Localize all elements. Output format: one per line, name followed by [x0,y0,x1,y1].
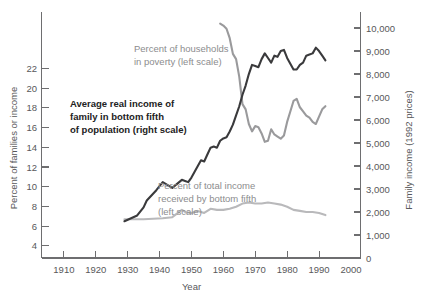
axis-bottom-tick-label: 1990 [309,264,330,275]
series-line-income-share [124,203,325,220]
axis-bottom-ticks [64,251,319,258]
annotation-share-line-3: (left scale) [158,206,202,217]
series-line-poverty-rate [220,24,325,142]
axis-bottom-tick-label: 1980 [277,264,298,275]
axis-right-tick-label: 9,000 [366,46,390,57]
axis-right-tick-label: 6,000 [366,115,390,126]
axis-right-ticks [354,28,361,258]
axis-right-tick-label: 5,000 [366,138,390,149]
axis-left-tick-label: 6 [32,221,37,232]
axis-bottom-title: Year [182,281,201,292]
annotation-income-line-1: Average real income of [70,98,175,109]
axis-bottom: 1910 1920 1930 1940 1950 1960 1970 1980 … [42,251,362,292]
axis-right-tick-label: 4,000 [366,161,390,172]
axis-left-tick-label: 10 [26,181,37,192]
chart-container: 22 20 18 16 14 12 10 8 6 4 Percent of fa… [0,0,422,295]
axis-right-tick-label: 7,000 [366,92,390,103]
axis-right-tick-labels: 0 1,000 2,000 3,000 4,000 5,000 6,000 7,… [366,23,395,264]
annotation-poverty: Percent of households in poverty (left s… [134,43,229,67]
annotation-poverty-line-1: Percent of households [134,43,229,54]
axis-bottom-tick-label: 1930 [117,264,138,275]
axis-left-tick-label: 12 [26,162,37,173]
axis-left-title: Percent of families or income [8,87,19,210]
axis-bottom-tick-label: 1950 [181,264,202,275]
axis-right-tick-label: 0 [366,253,371,264]
axis-bottom-tick-label: 1960 [213,264,234,275]
axis-bottom-tick-labels: 1910 1920 1930 1940 1950 1960 1970 1980 … [53,264,361,275]
axis-right-tick-label: 8,000 [366,69,390,80]
annotation-income-line-3: of population (right scale) [70,124,187,135]
axis-right-tick-label: 2,000 [366,207,390,218]
axis-left-tick-label: 8 [32,201,37,212]
axis-left-tick-label: 16 [26,122,37,133]
annotation-income-line-2: family in bottom fifth [70,111,164,122]
axis-bottom-tick-label: 1910 [53,264,74,275]
axis-bottom-tick-label: 1920 [85,264,106,275]
axis-left-tick-label: 22 [26,63,37,74]
annotation-share-line-2: received by bottom fifth [158,193,256,204]
axis-left-tick-label: 4 [32,240,37,251]
axis-left-tick-label: 14 [26,142,37,153]
axis-bottom-tick-label: 2000 [340,264,361,275]
annotation-poverty-line-2: in poverty (left scale) [134,56,222,67]
axis-left-tick-label: 18 [26,102,37,113]
axis-left-tick-labels: 22 20 18 16 14 12 10 8 6 4 [26,63,37,251]
axis-left-ticks [42,69,49,246]
axis-left: 22 20 18 16 14 12 10 8 6 4 Percent of fa… [8,12,49,258]
axis-bottom-tick-label: 1940 [149,264,170,275]
chart-canvas: 22 20 18 16 14 12 10 8 6 4 Percent of fa… [0,0,422,295]
annotation-share-line-1: Percent of total income [158,180,255,191]
axis-right: 0 1,000 2,000 3,000 4,000 5,000 6,000 7,… [354,12,415,264]
axis-right-title: Family income (1992 prices) [403,90,414,209]
axis-bottom-tick-label: 1970 [245,264,266,275]
axis-right-tick-label: 3,000 [366,184,390,195]
axis-right-tick-label: 10,000 [366,23,395,34]
axis-left-tick-label: 20 [26,83,37,94]
annotation-income: Average real income of family in bottom … [70,98,187,135]
axis-right-tick-label: 1,000 [366,230,390,241]
